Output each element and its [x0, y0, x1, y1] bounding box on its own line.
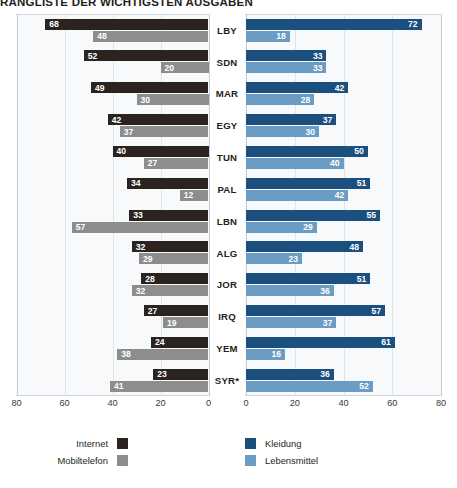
bar-value-label: 49	[95, 83, 105, 92]
x-tick-left-0: 0	[206, 398, 211, 408]
bar-value-label: 34	[131, 179, 141, 188]
chart-legend: InternetMobiltelefonKleidungLebensmittel	[0, 437, 457, 471]
legend-label-lebensmittel: Lebensmittel	[265, 455, 318, 466]
bar-value-label: 24	[155, 338, 165, 347]
bar-lebensmittel-yem: 16	[246, 349, 285, 360]
bar-mobiltelefon-tun: 27	[144, 158, 209, 169]
bar-mobiltelefon-mar: 30	[137, 94, 209, 105]
bar-value-label: 68	[49, 20, 59, 29]
bar-value-label: 37	[124, 127, 134, 136]
bar-kleidung-yem: 61	[246, 337, 395, 348]
bar-mobiltelefon-syr: 41	[110, 381, 208, 392]
bar-value-label: 41	[114, 382, 124, 391]
bar-value-label: 37	[323, 115, 333, 124]
bar-value-label: 51	[357, 274, 367, 283]
x-tick-right-20: 20	[290, 398, 300, 408]
bar-row: 33575529LBN	[0, 205, 457, 236]
bar-value-label: 72	[408, 20, 418, 29]
bar-row: 23413652SYR*	[0, 364, 457, 395]
category-label-irq: IRQ	[209, 311, 245, 322]
bar-value-label: 48	[349, 243, 359, 252]
legend-item-kleidung: Kleidung	[245, 437, 302, 450]
bar-mobiltelefon-egy: 37	[120, 126, 209, 137]
bar-row: 28325136JOR	[0, 269, 457, 300]
bar-mobiltelefon-lbn: 57	[72, 222, 209, 233]
bar-kleidung-tun: 50	[246, 146, 368, 157]
bar-value-label: 42	[112, 115, 122, 124]
bar-value-label: 36	[320, 286, 330, 295]
x-tick-right-0: 0	[243, 398, 248, 408]
bar-value-label: 33	[313, 64, 323, 73]
bar-value-label: 42	[335, 191, 345, 200]
x-tick-left-60: 60	[59, 398, 69, 408]
bar-row: 40275040TUN	[0, 141, 457, 172]
bar-kleidung-jor: 51	[246, 273, 370, 284]
bar-value-label: 28	[301, 95, 311, 104]
legend-swatch-mobil	[117, 455, 128, 466]
bar-lebensmittel-jor: 36	[246, 285, 334, 296]
category-label-syr: SYR*	[209, 374, 245, 385]
bar-row: 34125142PAL	[0, 173, 457, 204]
bar-internet-egy: 42	[108, 114, 209, 125]
bar-mobiltelefon-pal: 12	[180, 190, 209, 201]
bar-lebensmittel-tun: 40	[246, 158, 344, 169]
legend-item-internet: Internet	[18, 437, 128, 450]
category-label-jor: JOR	[209, 279, 245, 290]
bar-kleidung-alg: 48	[246, 241, 363, 252]
bar-kleidung-sdn: 33	[246, 50, 326, 61]
bar-mobiltelefon-sdn: 20	[161, 62, 209, 73]
bar-value-label: 38	[121, 350, 131, 359]
bar-internet-alg: 32	[132, 241, 209, 252]
bar-value-label: 50	[354, 147, 364, 156]
bar-internet-tun: 40	[113, 146, 209, 157]
bar-lebensmittel-alg: 23	[246, 253, 302, 264]
bar-value-label: 29	[143, 255, 153, 264]
bar-internet-pal: 34	[127, 178, 209, 189]
bar-value-label: 55	[367, 211, 377, 220]
bar-value-label: 23	[289, 255, 299, 264]
bar-value-label: 30	[306, 127, 316, 136]
bar-lebensmittel-syr: 52	[246, 381, 373, 392]
bar-value-label: 52	[88, 52, 98, 61]
bar-value-label: 57	[76, 223, 86, 232]
x-tick-left-20: 20	[155, 398, 165, 408]
bar-row: 27195737IRQ	[0, 301, 457, 332]
bar-value-label: 20	[165, 64, 175, 73]
bar-value-label: 37	[323, 318, 333, 327]
bar-value-label: 30	[141, 95, 151, 104]
bar-internet-jor: 28	[141, 273, 208, 284]
category-label-lby: LBY	[209, 24, 245, 35]
bar-value-label: 32	[136, 286, 146, 295]
chart-plot-area: 68487218LBY52203333SDN49304228MAR4237373…	[0, 14, 457, 396]
bar-value-label: 61	[381, 338, 391, 347]
legend-item-mobil: Mobiltelefon	[18, 454, 128, 467]
category-label-tun: TUN	[209, 152, 245, 163]
x-tick-right-40: 40	[338, 398, 348, 408]
category-label-mar: MAR	[209, 88, 245, 99]
bar-value-label: 40	[330, 159, 340, 168]
bar-value-label: 28	[145, 274, 155, 283]
bar-lebensmittel-lbn: 29	[246, 222, 317, 233]
bar-value-label: 57	[371, 306, 381, 315]
bar-value-label: 52	[359, 382, 369, 391]
x-axis: 806040200020406080	[0, 398, 457, 414]
category-label-pal: PAL	[209, 183, 245, 194]
category-label-lbn: LBN	[209, 215, 245, 226]
bar-lebensmittel-egy: 30	[246, 126, 319, 137]
bar-value-label: 51	[357, 179, 367, 188]
bar-internet-yem: 24	[151, 337, 209, 348]
bar-kleidung-syr: 36	[246, 369, 334, 380]
bar-row: 52203333SDN	[0, 46, 457, 77]
category-label-alg: ALG	[209, 247, 245, 258]
bar-internet-irq: 27	[144, 305, 209, 316]
bar-row: 32294823ALG	[0, 237, 457, 268]
bar-kleidung-pal: 51	[246, 178, 370, 189]
bar-mobiltelefon-yem: 38	[117, 349, 208, 360]
bar-value-label: 23	[157, 370, 167, 379]
x-tick-right-80: 80	[436, 398, 446, 408]
category-label-yem: YEM	[209, 343, 245, 354]
bar-mobiltelefon-lby: 48	[93, 31, 208, 42]
bar-value-label: 33	[133, 211, 143, 220]
legend-label-kleidung: Kleidung	[265, 438, 302, 449]
bar-value-label: 29	[303, 223, 313, 232]
